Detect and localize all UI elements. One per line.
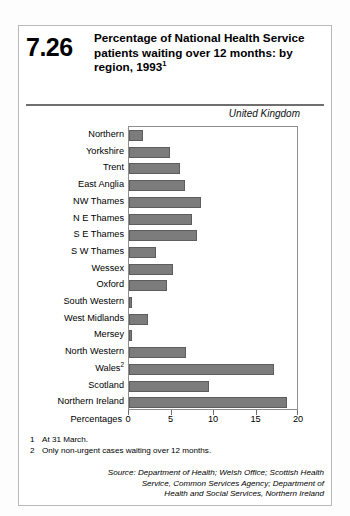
bar — [129, 147, 170, 158]
bar — [129, 163, 180, 174]
source-line-1: Source: Department of Health; Welsh Offi… — [108, 468, 324, 477]
figure-title-line-2: patients waiting over 12 months: by — [94, 46, 293, 59]
category-label: East Anglia — [78, 176, 124, 193]
bar-row — [129, 294, 297, 311]
footnote-marker: 1 — [30, 434, 35, 445]
bar — [129, 280, 167, 291]
bar-row — [129, 394, 297, 411]
bar — [129, 347, 186, 358]
bar — [129, 330, 132, 341]
footnote: 2Only non-urgent cases waiting over 12 m… — [30, 445, 320, 456]
axis-tick-label: 15 — [250, 414, 260, 424]
bar — [129, 364, 274, 375]
category-label: Wessex — [91, 260, 124, 277]
header-divider — [26, 104, 324, 106]
category-label: North Western — [65, 343, 124, 360]
category-label: South Western — [63, 293, 124, 310]
plot-frame — [128, 126, 298, 410]
axis-title: Percentages — [26, 414, 122, 424]
category-label: Trent — [103, 159, 124, 176]
axis-tick-label: 10 — [208, 414, 218, 424]
bar — [129, 314, 148, 325]
bar-row — [129, 327, 297, 344]
bar — [129, 130, 143, 141]
bar — [129, 214, 192, 225]
figure-title: Percentage of National Health Service pa… — [94, 31, 330, 75]
footnote-text: At 31 March. — [42, 435, 88, 444]
bar-row — [129, 194, 297, 211]
category-label-column: NorthernYorkshireTrentEast AngliaNW Tham… — [26, 126, 124, 410]
bar-row — [129, 211, 297, 228]
category-label: NW Thames — [73, 193, 124, 210]
figure-header: 7.26 Percentage of National Health Servi… — [26, 31, 326, 99]
category-label: Oxford — [96, 276, 124, 293]
category-label: Scotland — [88, 377, 124, 394]
figure-title-line-1: Percentage of National Health Service — [94, 31, 304, 44]
figure-title-footnote-marker: 1 — [162, 59, 166, 68]
source-line-3: Health and Social Services, Northern Ire… — [164, 489, 324, 498]
figure-page: 7.26 Percentage of National Health Servi… — [0, 0, 350, 516]
bars-container — [129, 127, 297, 409]
bar — [129, 197, 201, 208]
bar — [129, 180, 185, 191]
bar-row — [129, 160, 297, 177]
bar-row — [129, 361, 297, 378]
figure-number: 7.26 — [26, 33, 73, 62]
category-footnote-marker: 2 — [120, 361, 124, 368]
bar — [129, 381, 209, 392]
bar-row — [129, 144, 297, 161]
axis-tick-labels: 05101520 — [128, 414, 298, 428]
category-label: Northern — [88, 126, 124, 143]
footnotes: 1At 31 March.2Only non-urgent cases wait… — [30, 434, 320, 456]
bar — [129, 397, 287, 408]
footnote: 1At 31 March. — [30, 434, 320, 445]
source-note: Source: Department of Health; Welsh Offi… — [92, 468, 324, 500]
category-label: West Midlands — [64, 310, 124, 327]
category-label: S E Thames — [74, 226, 124, 243]
category-label: Mersey — [94, 326, 124, 343]
category-label: S W Thames — [71, 243, 124, 260]
bar-row — [129, 261, 297, 278]
bar-row — [129, 378, 297, 395]
axis-tick-label: 0 — [125, 414, 130, 424]
bar — [129, 264, 173, 275]
chart-subtitle: United Kingdom — [229, 108, 300, 119]
footnote-text: Only non-urgent cases waiting over 12 mo… — [42, 446, 211, 455]
bar-row — [129, 177, 297, 194]
bar-row — [129, 277, 297, 294]
category-label: Yorkshire — [86, 143, 124, 160]
footnote-marker: 2 — [30, 445, 35, 456]
category-label: Wales2 — [95, 360, 124, 377]
bar-row — [129, 244, 297, 261]
axis-tick-label: 20 — [293, 414, 303, 424]
axis-tick-label: 5 — [168, 414, 173, 424]
category-label: N E Thames — [73, 210, 124, 227]
bar — [129, 247, 156, 258]
bar-row — [129, 311, 297, 328]
bar — [129, 230, 197, 241]
figure-title-line-3: region, 1993 — [94, 60, 162, 73]
bar — [129, 297, 132, 308]
chart-area: United Kingdom NorthernYorkshireTrentEas… — [26, 108, 324, 426]
bar-row — [129, 344, 297, 361]
source-line-2: Service, Common Services Agency; Departm… — [142, 479, 324, 488]
bar-row — [129, 227, 297, 244]
bar-row — [129, 127, 297, 144]
category-label: Northern Ireland — [58, 393, 124, 410]
